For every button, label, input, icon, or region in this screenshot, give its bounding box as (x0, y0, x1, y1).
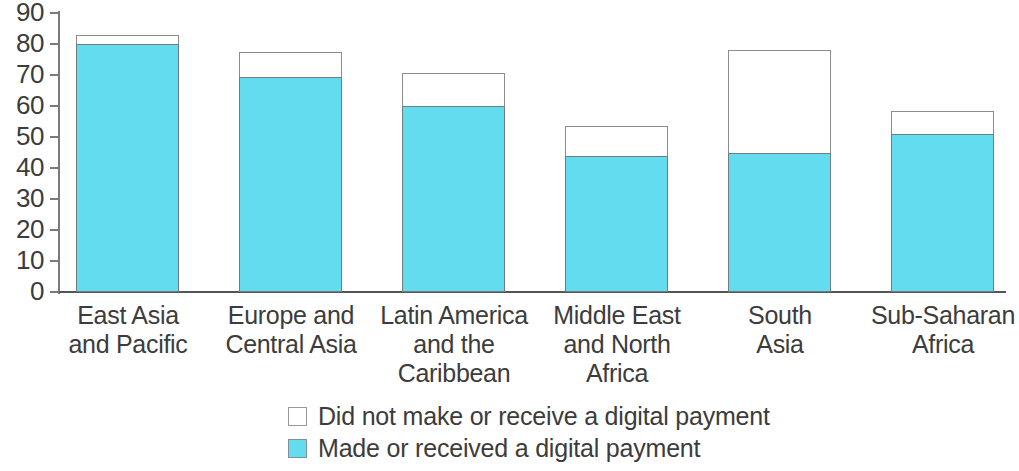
x-axis-category-label: Middle Eastand NorthAfrica (530, 301, 705, 388)
y-tick-label: 10 (0, 247, 44, 273)
bar-group (891, 13, 994, 292)
bar-segment-made-or-received (565, 156, 668, 292)
category-label-line: Caribbean (367, 359, 542, 388)
category-label-line: Africa (856, 330, 1019, 359)
y-tick-label: 70 (0, 61, 44, 87)
bar-group (76, 13, 179, 292)
category-label-line: Sub-Saharan (856, 301, 1019, 330)
y-tick-label: 30 (0, 185, 44, 211)
category-label-line: Latin America (367, 301, 542, 330)
bar-segment-made-or-received (76, 44, 179, 292)
y-tick-label: 20 (0, 216, 44, 242)
stacked-bar-chart: 9080706050403020100 East Asiaand Pacific… (0, 0, 1019, 471)
category-label-line: East Asia (41, 301, 216, 330)
x-axis-category-label: Latin Americaand theCaribbean (367, 301, 542, 388)
category-label-line: Europe and (204, 301, 379, 330)
y-tick-label: 40 (0, 154, 44, 180)
legend-label-made-or-received: Made or received a digital payment (318, 434, 700, 462)
legend-item-did-not-make: Did not make or receive a digital paymen… (288, 400, 770, 432)
legend-item-made-or-received: Made or received a digital payment (288, 432, 770, 464)
y-tick-label: 90 (0, 0, 44, 25)
x-axis-category-label: Sub-SaharanAfrica (856, 301, 1019, 359)
y-tick-label: 0 (0, 278, 44, 304)
bar-group (728, 13, 831, 292)
plot-area (58, 13, 1003, 292)
y-tick-label: 50 (0, 123, 44, 149)
category-label-line: Asia (693, 330, 868, 359)
y-tick-label: 80 (0, 30, 44, 56)
bar-segment-made-or-received (728, 153, 831, 293)
category-label-line: Africa (530, 359, 705, 388)
bar-group (402, 13, 505, 292)
x-axis-category-label: East Asiaand Pacific (41, 301, 216, 359)
bar-segment-made-or-received (239, 77, 342, 292)
x-axis-category-label: Europe andCentral Asia (204, 301, 379, 359)
category-label-line: and North (530, 330, 705, 359)
bar-segment-made-or-received (402, 106, 505, 292)
white-square-icon (288, 407, 307, 426)
category-label-line: South (693, 301, 868, 330)
bar-segment-made-or-received (891, 134, 994, 292)
category-label-line: and the (367, 330, 542, 359)
bar-group (565, 13, 668, 292)
legend-label-did-not-make: Did not make or receive a digital paymen… (318, 402, 770, 430)
y-tick-label: 60 (0, 92, 44, 118)
category-label-line: Central Asia (204, 330, 379, 359)
bar-group (239, 13, 342, 292)
chart-legend: Did not make or receive a digital paymen… (288, 400, 770, 464)
cyan-square-icon (288, 439, 307, 458)
category-label-line: and Pacific (41, 330, 216, 359)
x-axis-category-label: SouthAsia (693, 301, 868, 359)
category-label-line: Middle East (530, 301, 705, 330)
